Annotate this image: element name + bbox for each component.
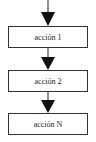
arrow-step-1-to-2 [41,48,55,70]
arrow-into-step-1 [41,0,55,26]
arrow-step-2-to-n [41,92,55,113]
step-1-label: acción 1 [35,33,62,42]
step-n-label: acción N [34,120,63,129]
step-1-box: acción 1 [8,26,88,48]
step-2-label: acción 2 [35,77,62,86]
step-n-box: acción N [8,113,88,135]
step-2-box: acción 2 [8,70,88,92]
